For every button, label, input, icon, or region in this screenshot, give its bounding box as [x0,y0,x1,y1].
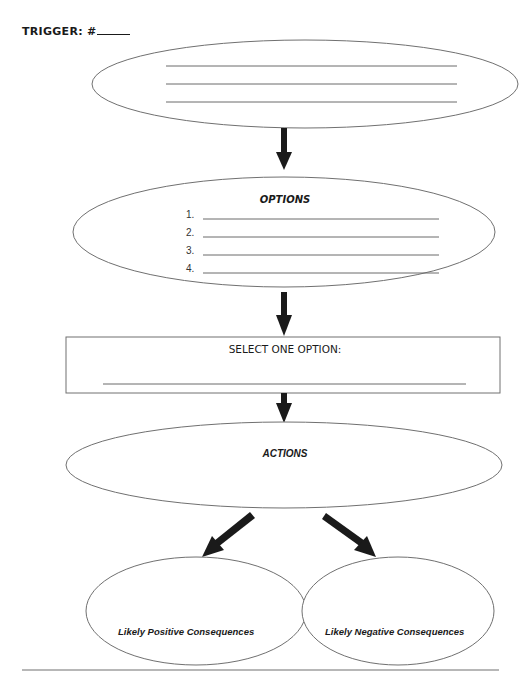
negative-consequences-label: Likely Negative Consequences [325,626,464,637]
trigger-number-field[interactable] [97,24,130,35]
option-number-1: 1. [186,209,194,220]
arrow-down-icon [276,393,292,423]
actions-ellipse [66,422,502,508]
arrow-down-left-icon [202,512,255,557]
negative-consequences-ellipse [302,557,494,665]
trigger-label: TRIGGER: # [22,25,97,38]
arrow-down-icon [276,128,292,170]
trigger-heading: TRIGGER: # [22,24,130,38]
arrow-down-icon [276,292,292,336]
option-number-2: 2. [186,227,194,238]
options-title: OPTIONS [0,194,525,205]
positive-consequences-ellipse [86,557,306,665]
actions-title: ACTIONS [0,448,525,459]
select-option-title: SELECT ONE OPTION: [0,343,525,355]
arrow-down-right-icon [322,513,376,557]
positive-consequences-label: Likely Positive Consequences [118,626,254,637]
option-number-4: 4. [186,263,194,274]
option-number-3: 3. [186,245,194,256]
